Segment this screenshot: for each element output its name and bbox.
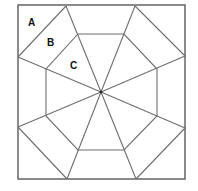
corner-diagonal-0 [18,6,66,57]
octagon-quilt-diagram: A B C [0,0,198,191]
corner-diagonal-1 [135,6,185,56]
spoke-6 [18,92,101,127]
region-labels: A B C [28,17,77,71]
label-b: B [47,37,54,48]
label-a: A [28,17,35,28]
corner-diagonal-2 [136,128,185,179]
corner-diagonal-3 [18,127,67,179]
spoke-5 [67,92,101,179]
center-point [100,91,102,93]
center-dot [100,91,102,93]
label-c: C [70,60,77,71]
